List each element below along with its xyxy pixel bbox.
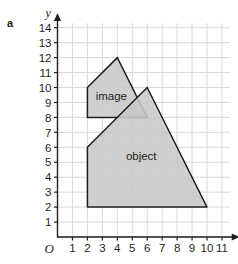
y-tick-label: 5 [45,156,51,168]
y-tick-label: 3 [45,186,51,198]
x-tick-label: 7 [159,242,165,254]
y-tick-label: 14 [39,22,52,34]
x-tick-label: 1 [69,242,75,254]
y-tick-label: 12 [39,52,52,64]
x-tick-label: 10 [201,242,214,254]
y-tick-label: 9 [45,97,51,109]
y-tick-label: 4 [45,171,52,183]
y-tick-label: 11 [40,67,52,79]
x-tick-label: 8 [174,242,180,254]
x-axis-arrowhead [232,233,238,240]
x-tick-label: 4 [114,242,121,254]
coordinate-grid-figure: 12345678910111234567891011121314 x y O i… [0,0,238,264]
x-tick-label: 3 [99,242,105,254]
y-axis-arrowhead [54,13,61,21]
y-tick-label: 1 [45,216,51,228]
y-tick-label: 13 [39,37,52,49]
y-axis-label: y [45,6,52,20]
x-tick-label: 5 [129,242,135,254]
y-tick-label: 7 [45,127,51,139]
y-tick-label: 10 [39,82,52,94]
coordinate-plane-svg: 12345678910111234567891011121314 x y O i… [0,0,238,264]
x-tick-label: 2 [84,242,90,254]
y-tick-label: 8 [45,112,51,124]
x-tick-label: 6 [144,242,150,254]
object-shape-label: object [126,150,157,162]
x-tick-label: 11 [216,242,228,254]
image-shape-label: image [96,90,127,102]
x-tick-label: 9 [189,242,195,254]
y-tick-label: 6 [45,142,51,154]
origin-label: O [45,241,55,256]
y-tick-label: 2 [45,201,51,213]
